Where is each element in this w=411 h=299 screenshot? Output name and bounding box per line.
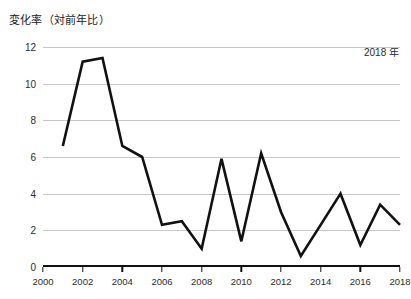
- y-axis-tick-label: 4: [30, 188, 36, 199]
- series-line-chart: [43, 47, 400, 267]
- x-axis-tick-label: 2018: [389, 276, 410, 287]
- series-polyline: [63, 58, 400, 256]
- x-axis-tick: [82, 267, 83, 272]
- x-axis-tick-label: 2012: [270, 276, 291, 287]
- x-axis-tick-label: 2010: [231, 276, 252, 287]
- y-axis-tick-label: 0: [30, 262, 36, 273]
- y-axis-tick-label: 10: [25, 78, 36, 89]
- x-axis-tick: [42, 267, 43, 272]
- x-axis-tick: [399, 267, 400, 272]
- x-axis-tick: [280, 267, 281, 272]
- plot-area: 024681012 200020022004200620082010201220…: [43, 47, 400, 267]
- y-axis-tick-label: 6: [30, 152, 36, 163]
- x-axis-tick: [161, 267, 162, 272]
- x-axis-tick-label: 2016: [350, 276, 371, 287]
- x-axis-tick-label: 2008: [191, 276, 212, 287]
- x-axis-tick: [320, 267, 321, 272]
- x-axis-tick: [201, 267, 202, 272]
- x-axis-tick-label: 2014: [310, 276, 331, 287]
- x-axis-tick: [241, 267, 242, 272]
- chart-container: 変化率（対前年比） 2018 年 024681012 2000200220042…: [0, 0, 411, 299]
- x-axis-tick-label: 2004: [112, 276, 133, 287]
- y-axis-tick-label: 12: [25, 42, 36, 53]
- x-axis-tick: [122, 267, 123, 272]
- x-axis-tick-label: 2000: [32, 276, 53, 287]
- chart-title: 変化率（対前年比）: [9, 11, 110, 27]
- x-axis-tick-label: 2002: [72, 276, 93, 287]
- y-axis-tick-label: 2: [30, 225, 36, 236]
- x-axis-tick: [360, 267, 361, 272]
- x-axis-tick-label: 2006: [151, 276, 172, 287]
- y-axis-tick-label: 8: [30, 115, 36, 126]
